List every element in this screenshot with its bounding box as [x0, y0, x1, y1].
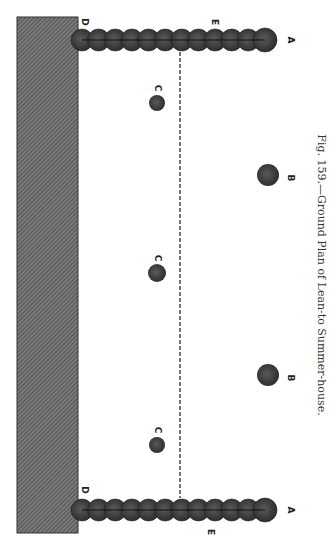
- post-b: [257, 164, 279, 186]
- post-c: [149, 95, 165, 111]
- label-b: B: [286, 375, 296, 382]
- post-c: [149, 437, 165, 453]
- posts: [148, 95, 279, 453]
- label-e: E: [210, 19, 220, 25]
- chain-top: [71, 28, 277, 52]
- post-c: [148, 264, 166, 282]
- back-wall: [17, 17, 78, 533]
- label-d: D: [80, 486, 90, 493]
- ground-plan-diagram: DEACBCBCDEA Fig. 159.—Ground Plan of Lea…: [0, 0, 332, 547]
- figure-caption: Fig. 159.—Ground Plan of Lean-to Summer-…: [315, 134, 328, 415]
- label-c: C: [153, 255, 163, 262]
- labels: DEACBCBCDEA: [80, 18, 296, 535]
- label-a: A: [286, 507, 296, 514]
- chain-bottom: [71, 498, 277, 522]
- wall-rect: [17, 17, 78, 533]
- label-e: E: [206, 529, 216, 535]
- label-c: C: [153, 427, 163, 434]
- label-c: C: [153, 85, 163, 92]
- label-d: D: [80, 18, 90, 25]
- column-chains: [71, 28, 277, 522]
- caption-text: Fig. 159.—Ground Plan of Lean-to Summer-…: [315, 134, 328, 415]
- label-a: A: [286, 37, 296, 44]
- post-b: [257, 364, 279, 386]
- label-b: B: [286, 175, 296, 182]
